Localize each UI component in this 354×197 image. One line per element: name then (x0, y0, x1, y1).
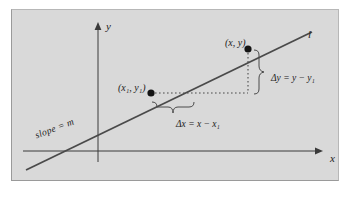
lower-point-label: (x₁, y₁) (118, 83, 146, 93)
line-l (26, 32, 312, 170)
y-axis-label: y (106, 21, 111, 32)
figure-root: y x l (x, y) (x₁, y₁) Δy = y − y₁ Δx = x… (0, 0, 354, 197)
upper-point-label: (x, y) (225, 38, 246, 48)
y-axis (95, 22, 102, 162)
line-label: l (308, 29, 311, 40)
lower-point-marker (147, 89, 154, 96)
x-axis (23, 148, 323, 155)
figure-frame: y x l (x, y) (x₁, y₁) Δy = y − y₁ Δx = x… (11, 9, 339, 181)
delta-x-brace (152, 102, 194, 113)
delta-y-label: Δy = y − y₁ (271, 74, 315, 84)
delta-x-label: Δx = x − x₁ (176, 120, 220, 130)
diagram-canvas (12, 10, 338, 180)
x-axis-label: x (330, 153, 335, 164)
